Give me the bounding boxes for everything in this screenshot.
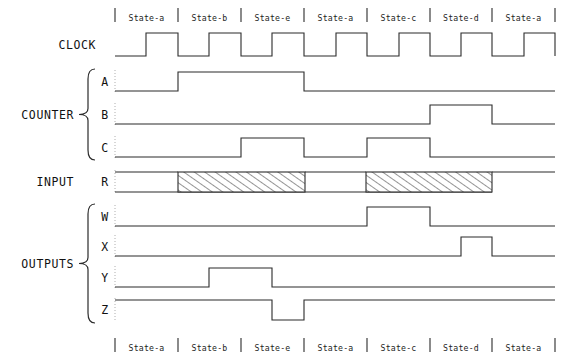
top-state-label-row: State-aState-bState-eState-aState-cState… bbox=[129, 13, 542, 23]
state-label-bottom-1: State-b bbox=[192, 343, 228, 353]
state-label-bottom-0: State-a bbox=[129, 343, 165, 353]
waveform-z bbox=[115, 300, 555, 320]
dont-care-region-1 bbox=[366, 172, 492, 192]
signal-label-x: X bbox=[101, 240, 109, 254]
state-label-top-3: State-a bbox=[318, 13, 354, 23]
dont-care-region-0 bbox=[178, 172, 305, 192]
state-label-top-5: State-d bbox=[443, 13, 479, 23]
signal-label-z: Z bbox=[101, 303, 109, 317]
brace-counter bbox=[79, 69, 95, 160]
state-label-top-1: State-b bbox=[192, 13, 228, 23]
state-label-top-2: State-e bbox=[255, 13, 291, 23]
timing-diagram-root: State-aState-bState-eState-aState-cState… bbox=[0, 0, 568, 363]
signal-label-r: R bbox=[101, 175, 109, 189]
waveform-c bbox=[115, 138, 555, 157]
state-label-top-4: State-c bbox=[381, 13, 417, 23]
bottom-state-label-row: State-aState-bState-eState-aState-cState… bbox=[129, 343, 542, 353]
group-label-counter: COUNTER bbox=[21, 108, 74, 122]
signal-label-a: A bbox=[101, 75, 109, 89]
group-label-input: INPUT bbox=[36, 175, 74, 189]
waveform-clock bbox=[115, 33, 555, 56]
signal-label-y: Y bbox=[101, 271, 109, 285]
brace-outputs bbox=[79, 204, 95, 323]
timing-diagram-canvas: State-aState-bState-eState-aState-cState… bbox=[0, 0, 568, 363]
state-label-bottom-4: State-c bbox=[381, 343, 417, 353]
waveform-a bbox=[115, 72, 555, 91]
group-braces bbox=[79, 69, 95, 323]
state-label-bottom-5: State-d bbox=[443, 343, 479, 353]
state-label-bottom-2: State-e bbox=[255, 343, 291, 353]
group-label-outputs: OUTPUTS bbox=[21, 257, 74, 271]
waveform-y bbox=[115, 268, 555, 287]
signal-label-c: C bbox=[101, 141, 109, 155]
signal-label-w: W bbox=[101, 210, 109, 224]
waveform-x bbox=[115, 237, 555, 256]
state-label-top-0: State-a bbox=[129, 13, 165, 23]
signal-label-b: B bbox=[101, 108, 109, 122]
dont-care-regions bbox=[178, 172, 492, 192]
signal-label-clock: CLOCK bbox=[58, 38, 96, 52]
waveform-b bbox=[115, 105, 555, 124]
state-label-bottom-6: State-a bbox=[506, 343, 542, 353]
waveform-w bbox=[115, 207, 555, 226]
state-label-top-6: State-a bbox=[506, 13, 542, 23]
state-label-bottom-3: State-a bbox=[318, 343, 354, 353]
group-labels: COUNTERINPUTOUTPUTS bbox=[21, 108, 74, 271]
